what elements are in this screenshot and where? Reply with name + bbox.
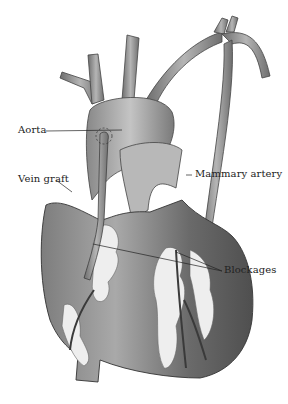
label-aorta: Aorta [18,124,47,135]
label-vein-graft: Vein graft [18,173,69,184]
heart-illustration [0,0,288,404]
label-blockages: Blockages [224,264,277,275]
heart-body [41,200,253,382]
heart-diagram: Aorta Vein graft Mammary artery Blockage… [0,0,288,404]
arch-branches [60,32,222,104]
label-mammary-artery: Mammary artery [195,168,282,179]
